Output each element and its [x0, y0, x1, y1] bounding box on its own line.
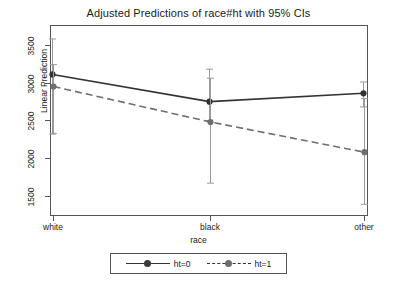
legend: ht=0 ht=1 [110, 253, 287, 274]
data-point-marker [360, 90, 366, 96]
chart-figure: Adjusted Predictions of race#ht with 95%… [0, 0, 397, 286]
data-point-marker [207, 119, 213, 125]
legend-label-ht0: ht=0 [174, 259, 191, 269]
data-point-marker [50, 83, 56, 89]
legend-entry-ht1[interactable]: ht=1 [207, 259, 272, 269]
series-ht0 [49, 39, 367, 134]
data-point-marker [206, 99, 212, 105]
legend-key-solid-line-icon [126, 259, 170, 269]
data-point-marker [361, 149, 367, 155]
series-layer [0, 0, 397, 286]
legend-entry-ht0[interactable]: ht=0 [126, 259, 191, 269]
data-point-marker [49, 71, 55, 77]
legend-label-ht1: ht=1 [255, 259, 272, 269]
legend-key-dashed-line-icon [207, 259, 251, 269]
